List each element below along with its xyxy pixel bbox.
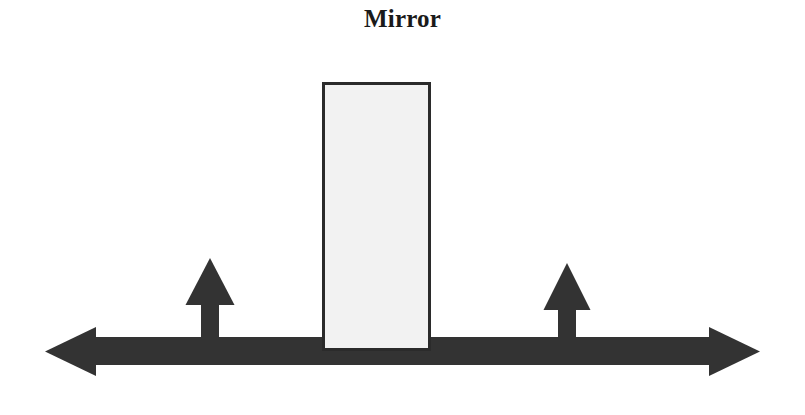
- axis-right-arrowhead-icon: [709, 327, 760, 376]
- reflected-ray-arrowhead-icon: [544, 263, 591, 310]
- axis-left-arrowhead-icon: [45, 327, 96, 376]
- diagram-canvas: Mirror: [0, 0, 805, 415]
- mirror-surface: [324, 84, 430, 350]
- mirror-diagram: [0, 0, 805, 415]
- mirror-surface-group: [324, 84, 430, 350]
- incident-ray-arrowhead-icon: [186, 258, 235, 305]
